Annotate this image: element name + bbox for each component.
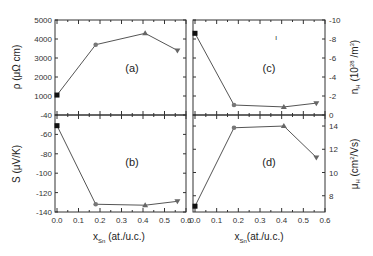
x-axis-title-right: xSn(at./u.c.) <box>234 231 283 244</box>
panel-b: -40-60-80-100-120-1400.00.10.20.30.40.50… <box>36 111 192 225</box>
marker-triangle-down <box>313 155 319 160</box>
y-tick-label: -80 <box>40 150 52 159</box>
data-series-line <box>195 126 316 206</box>
y-tick-label: 5000 <box>34 16 52 25</box>
panel-frame <box>193 20 325 115</box>
panel-label: (a) <box>125 62 138 74</box>
x-tick-label: 0.6 <box>319 216 331 225</box>
x-tick-label: 0.5 <box>159 216 171 225</box>
marker-square <box>193 31 198 36</box>
panel-a: 10002000300040005000(a) <box>34 16 186 115</box>
annotation-mark: ı <box>275 33 277 42</box>
panel-d: 81012140.00.10.20.30.40.50.6(d) <box>189 115 338 225</box>
y-tick-label: 4000 <box>34 35 52 44</box>
y-tick-label: 3000 <box>34 54 52 63</box>
panel-frame <box>55 20 186 115</box>
y-tick-label: -140 <box>36 208 53 217</box>
x-tick-label: 0.3 <box>254 216 266 225</box>
y-tick-label: -40 <box>40 111 52 120</box>
marker-circle <box>93 42 98 47</box>
y-tick-label: -6 <box>329 54 337 63</box>
figure: 10002000300040005000(a)-40-60-80-100-120… <box>0 0 373 256</box>
y-tick-label: -2 <box>329 92 337 101</box>
y-tick-label: 14 <box>329 122 338 131</box>
panel-label: (c) <box>263 62 276 74</box>
y-axis-title-resistivity: ρ (μΩ cm) <box>11 45 22 89</box>
x-tick-label: 0.4 <box>276 216 288 225</box>
y-tick-label: 1000 <box>34 92 52 101</box>
x-tick-label: 0.1 <box>73 216 85 225</box>
marker-triangle-up <box>142 30 148 35</box>
y-tick-label: 2000 <box>34 73 52 82</box>
panel-label: (b) <box>125 156 138 168</box>
x-tick-label: 0.0 <box>189 216 201 225</box>
y-axis-title-seebeck: S (μV/K) <box>11 145 22 183</box>
y-tick-label: -120 <box>36 189 53 198</box>
panel-frame <box>193 115 325 212</box>
x-tick-label: 0.5 <box>298 216 310 225</box>
y-tick-label: -10 <box>329 16 341 25</box>
marker-square <box>55 123 60 128</box>
y-axis-title-mobility: μH (cm2/Vs) <box>349 139 361 190</box>
y-tick-label: 12 <box>329 145 338 154</box>
marker-circle <box>93 202 98 207</box>
marker-triangle-up <box>281 123 287 128</box>
x-axis-title-left: xSn (at./u.c.) <box>93 231 145 244</box>
x-tick-label: 0.3 <box>116 216 128 225</box>
panel-c: -10-8-6-4-20(c)ı <box>193 16 342 120</box>
marker-circle <box>232 125 237 130</box>
y-tick-label: -8 <box>329 35 337 44</box>
y-tick-label: 8 <box>329 192 334 201</box>
panel-label: (d) <box>262 156 275 168</box>
y-tick-label: -100 <box>36 169 53 178</box>
marker-square <box>193 204 198 209</box>
x-tick-label: 0.4 <box>137 216 149 225</box>
panel-frame <box>55 115 186 212</box>
marker-circle <box>232 103 237 108</box>
y-tick-label: 10 <box>329 169 338 178</box>
y-tick-label: -4 <box>329 73 337 82</box>
x-tick-label: 0.2 <box>233 216 245 225</box>
y-tick-label: 0 <box>329 111 334 120</box>
data-series-line <box>57 33 177 95</box>
marker-square <box>55 93 60 98</box>
data-series-line <box>195 33 316 107</box>
marker-triangle-down <box>174 48 180 53</box>
data-series-line <box>57 126 177 206</box>
x-tick-label: 0.2 <box>94 216 106 225</box>
x-tick-label: 0.1 <box>211 216 223 225</box>
y-tick-label: -60 <box>40 130 52 139</box>
y-axis-title-carrier-density: nH (1028 /m3) <box>349 40 361 94</box>
x-tick-label: 0.0 <box>51 216 63 225</box>
